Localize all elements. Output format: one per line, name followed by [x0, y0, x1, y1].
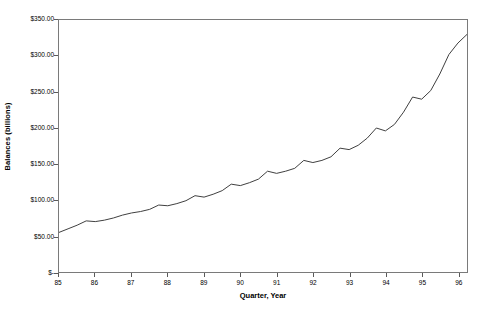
- x-axis-tick-label: 93: [346, 279, 353, 286]
- x-axis-tick-mark: [131, 273, 132, 277]
- plot-area: [58, 19, 468, 273]
- series-line-balances: [59, 34, 467, 232]
- y-axis-tick-mark: [54, 128, 58, 129]
- y-axis-tick-mark: [54, 92, 58, 93]
- x-axis-tick-mark: [386, 273, 387, 277]
- y-axis-tick-mark: [54, 237, 58, 238]
- y-axis-tick-label: $150.00: [31, 161, 55, 168]
- x-axis-tick-label: 95: [419, 279, 426, 286]
- x-axis-tick-mark: [422, 273, 423, 277]
- y-axis-tick-mark: [54, 164, 58, 165]
- x-axis-tick-label: 88: [164, 279, 171, 286]
- y-axis-tick-mark: [54, 200, 58, 201]
- line-chart: Balances (billions) $350.00$300.00$250.0…: [0, 0, 486, 309]
- x-axis-tick-mark: [277, 273, 278, 277]
- y-axis-title: Balances (billions): [0, 0, 14, 273]
- y-axis-tick-mark: [54, 19, 58, 20]
- x-axis-tick-mark: [94, 273, 95, 277]
- x-axis-tick-mark: [167, 273, 168, 277]
- x-axis-tick-label: 91: [273, 279, 280, 286]
- x-axis-tick-label: 89: [200, 279, 207, 286]
- y-axis-tick-label: $250.00: [31, 88, 55, 95]
- x-axis-tick-label: 87: [127, 279, 134, 286]
- x-axis-tick-label: 90: [237, 279, 244, 286]
- y-axis-tick-mark: [54, 55, 58, 56]
- y-axis-tick-label: $50.00: [34, 233, 54, 240]
- plot-svg: [59, 20, 467, 272]
- y-axis-tick-label: $100.00: [31, 197, 55, 204]
- x-axis-tick-label: 96: [455, 279, 462, 286]
- x-axis-tick-mark: [313, 273, 314, 277]
- x-axis-tick-mark: [58, 273, 59, 277]
- x-axis-tick-mark: [204, 273, 205, 277]
- x-axis-tick-label: 85: [54, 279, 61, 286]
- y-axis-tick-labels: $350.00$300.00$250.00$200.00$150.00$100.…: [14, 0, 58, 309]
- x-axis-tick-label: 86: [91, 279, 98, 286]
- x-axis-title: Quarter, Year: [58, 291, 468, 300]
- x-axis-tick-label: 94: [382, 279, 389, 286]
- y-axis-tick-label: $300.00: [31, 52, 55, 59]
- x-axis-tick-mark: [459, 273, 460, 277]
- x-axis-tick-mark: [240, 273, 241, 277]
- y-axis-tick-label: $200.00: [31, 125, 55, 132]
- y-axis-title-label: Balances (billions): [3, 102, 12, 170]
- x-axis-tick-label: 92: [309, 279, 316, 286]
- y-axis-tick-label: $350.00: [31, 16, 55, 23]
- x-axis-tick-mark: [350, 273, 351, 277]
